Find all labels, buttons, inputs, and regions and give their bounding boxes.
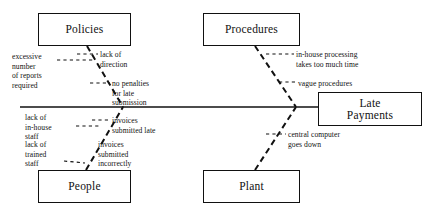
cause-label: invoices submitted late xyxy=(112,116,156,135)
category-box-plant: Plant xyxy=(203,170,300,203)
cause-label: in-house processing takes too much time xyxy=(296,50,358,69)
cause-label: lack of trained staff xyxy=(25,140,87,169)
cause-ticks-group xyxy=(57,54,296,163)
category-box-label: People xyxy=(68,180,101,192)
category-box-label: Policies xyxy=(65,23,103,35)
cause-label: vague procedures xyxy=(298,79,352,89)
category-box-people: People xyxy=(38,170,131,203)
effect-box-late-payments: Late Payments xyxy=(318,92,422,126)
cause-label: excessive number of reports required xyxy=(12,52,74,91)
effect-box-label: Late Payments xyxy=(347,97,393,122)
category-bone-procedures xyxy=(255,46,296,107)
category-box-label: Plant xyxy=(239,180,264,192)
cause-label: lack of in-house staff xyxy=(25,113,87,142)
cause-label: invoices submitted incorrectly xyxy=(98,140,131,169)
cause-label: lack of direction xyxy=(100,50,127,69)
category-box-procedures: Procedures xyxy=(203,13,300,46)
cause-label: no penalties for late submission xyxy=(112,79,149,108)
fishbone-diagram: Late PaymentsPoliciesPeopleProceduresPla… xyxy=(0,0,425,217)
category-box-policies: Policies xyxy=(38,13,131,46)
cause-label: central computer goes down xyxy=(288,130,340,149)
category-box-label: Procedures xyxy=(225,23,278,35)
